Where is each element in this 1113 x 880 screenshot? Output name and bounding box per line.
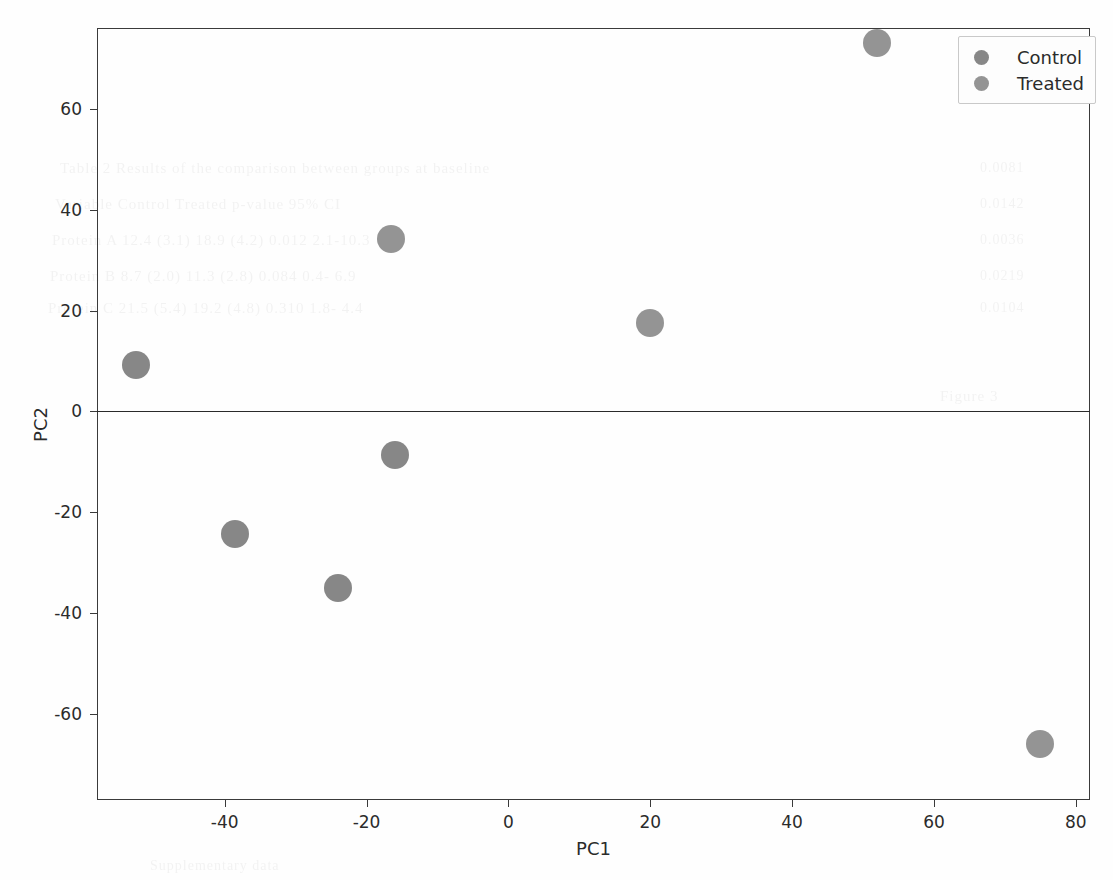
x-tick-label: -40 xyxy=(211,812,239,832)
scatter-point xyxy=(221,520,249,548)
ghost-text-line: Supplementary data xyxy=(150,858,280,874)
y-tick-mark xyxy=(90,109,97,110)
x-tick-label: -20 xyxy=(353,812,381,832)
x-tick-label: 80 xyxy=(1065,812,1087,832)
y-tick-mark xyxy=(90,714,97,715)
scatter-point xyxy=(381,441,409,469)
y-tick-label: -40 xyxy=(17,603,82,623)
y-tick-label: -60 xyxy=(17,704,82,724)
scatter-point xyxy=(636,309,664,337)
y-tick-mark xyxy=(90,210,97,211)
x-tick-label: 60 xyxy=(923,812,945,832)
x-tick-mark xyxy=(367,800,368,807)
legend-label: Treated xyxy=(1017,73,1084,94)
x-tick-mark xyxy=(1076,800,1077,807)
y-tick-mark xyxy=(90,512,97,513)
y-tick-mark xyxy=(90,411,97,412)
chart-legend: ControlTreated xyxy=(958,36,1096,104)
scatter-point xyxy=(324,574,352,602)
x-tick-label: 0 xyxy=(503,812,514,832)
plot-axes-frame xyxy=(97,28,1090,800)
x-tick-mark xyxy=(792,800,793,807)
y-tick-label: 40 xyxy=(17,200,82,220)
x-tick-mark xyxy=(934,800,935,807)
scatter-point xyxy=(122,351,150,379)
legend-label: Control xyxy=(1017,47,1082,68)
y-tick-label: -20 xyxy=(17,502,82,522)
scatter-point xyxy=(863,29,891,57)
legend-entry: Control xyxy=(968,44,1084,70)
y-tick-mark xyxy=(90,311,97,312)
x-tick-mark xyxy=(225,800,226,807)
scatter-point xyxy=(1026,730,1054,758)
x-axis-title: PC1 xyxy=(97,838,1090,859)
y-axis-title: PC2 xyxy=(30,365,51,485)
legend-entry: Treated xyxy=(968,70,1084,96)
x-tick-label: 20 xyxy=(639,812,661,832)
x-tick-label: 40 xyxy=(781,812,803,832)
x-tick-mark xyxy=(508,800,509,807)
y-tick-label: 60 xyxy=(17,99,82,119)
scatter-plot-figure: Table 2 Results of the comparison betwee… xyxy=(0,0,1113,880)
y-tick-mark xyxy=(90,613,97,614)
y-zero-reference-line xyxy=(97,411,1090,412)
x-tick-mark xyxy=(650,800,651,807)
legend-marker-icon xyxy=(974,76,989,91)
scatter-point xyxy=(377,225,405,253)
y-tick-label: 20 xyxy=(17,301,82,321)
legend-marker-icon xyxy=(974,50,989,65)
